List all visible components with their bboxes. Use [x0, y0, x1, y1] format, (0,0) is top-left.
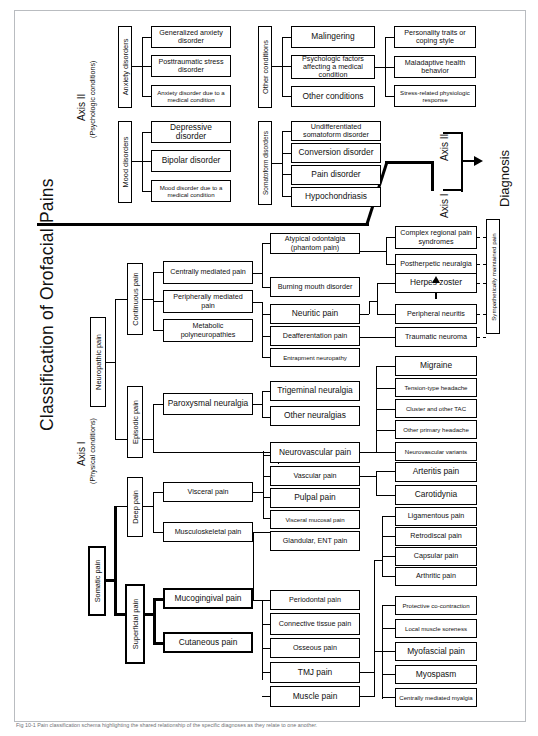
box-complex-regional-pain-syndromes: Complex regional pain syndromes [395, 226, 477, 249]
box-neuritic-pain: Neuritic pain [270, 304, 360, 324]
box-connective-tissue-pain: Connective tissue pain [270, 613, 360, 635]
box-maladaptive-health-behavior: Maladaptive health behavior [394, 56, 476, 78]
figure-caption: Fig 10-1 Pain classification schema high… [16, 722, 524, 728]
group-somatoform-disorders-label: Somatoform disorders [262, 131, 269, 195]
group-continuous-pain: Continuous pain [127, 263, 143, 335]
group-deep-pain-label: Deep pain [131, 490, 140, 524]
box-bipolar-disorder: Bipolar disorder [151, 150, 231, 172]
figure-page: Classification of Orofacial Pains Axis I… [0, 0, 538, 736]
figure-title: Classification of Orofacial Pains [37, 178, 58, 431]
box-centrally-mediated-pain: Centrally mediated pain [163, 261, 253, 284]
box-tmj-pain: TMJ pain [270, 662, 360, 683]
diagnosis-axis2-label: Axis II [439, 134, 450, 161]
axis1-label: Axis I [76, 442, 87, 466]
diagnosis-label: Diagnosis [497, 150, 512, 207]
box-peripheral-neuritis: Peripheral neuritis [395, 304, 477, 324]
group-sympathetically-maintained-pain: Sympathetically maintained pain [486, 219, 500, 334]
box-anxiety-disorder-medical: Anxiety disorder due to a medical condit… [151, 85, 231, 107]
box-centrally-mediated-myalgia: Centrally mediated myalgia [395, 688, 477, 707]
group-continuous-pain-label: Continuous pain [131, 272, 140, 325]
herpes-to-postherpetic-arrow-icon [432, 276, 440, 283]
group-sympathetically-maintained-pain-label: Sympathetically maintained pain [490, 233, 497, 320]
box-hypochondriasis: Hypochondriasis [291, 187, 381, 207]
box-pulpal-pain: Pulpal pain [270, 488, 360, 508]
box-cutaneous-pain: Cutaneous pain [163, 632, 253, 653]
group-superficial-pain-label: Superficial pain [131, 599, 140, 650]
box-stress-related-response: Stress-related physiologic response [394, 85, 476, 107]
box-conversion-disorder: Conversion disorder [291, 143, 381, 163]
box-mucogingival-pain: Mucogingival pain [163, 588, 253, 609]
box-arteritis-pain: Arteritis pain [395, 462, 477, 482]
group-anxiety-disorders: Anxiety disorders [118, 26, 132, 108]
box-periodontal-pain: Periodontal pain [270, 590, 360, 610]
box-mood-disorder-medical: Mood disorder due to a medical condition [151, 180, 231, 202]
box-paroxysmal-neuralgia: Paroxysmal neuralgia [163, 393, 253, 415]
group-episodic-pain-label: Episodic pain [131, 400, 140, 444]
box-vascular-pain: Vascular pain [270, 466, 360, 486]
box-burning-mouth-disorder: Burning mouth disorder [270, 277, 360, 297]
axis1-sublabel: (Physical conditions) [88, 418, 97, 484]
box-postherpetic-neuralgia: Postherpetic neuralgia [395, 254, 477, 274]
diagnosis-arrow-icon [474, 156, 483, 166]
box-migraine: Migraine [395, 356, 477, 376]
axis2-label: Axis II [76, 94, 87, 121]
box-posttraumatic-stress-disorder: Posttraumatic stress disorder [151, 55, 231, 77]
box-trigeminal-neuralgia: Trigeminal neuralgia [270, 381, 360, 401]
group-somatic-pain: Somatic pain [88, 546, 106, 616]
box-ligamentous-pain: Ligamentous pain [395, 507, 477, 526]
box-osseous-pain: Osseous pain [270, 638, 360, 658]
box-retrodiscal-pain: Retrodiscal pain [395, 527, 477, 546]
box-entrapment-neuropathy: Entrapment neuropathy [270, 348, 360, 367]
box-arthritic-pain: Arthritic pain [395, 567, 477, 586]
diagnosis-axis1-label: Axis I [439, 194, 450, 218]
group-mood-disorders-label: Mood disorders [121, 137, 130, 188]
group-neuropathic-pain-label: Neuropathic pain [94, 334, 103, 390]
box-traumatic-neuroma: Traumatic neuroma [395, 327, 477, 347]
group-mood-disorders: Mood disorders [118, 121, 132, 203]
box-protective-co-contraction: Protective co-contraction [395, 596, 477, 615]
group-other-conditions: Other conditions [258, 26, 272, 108]
box-visceral-pain: Visceral pain [163, 482, 253, 502]
box-other-conditions: Other conditions [291, 86, 375, 107]
group-anxiety-disorders-label: Anxiety disorders [121, 39, 130, 96]
box-generalized-anxiety-disorder: Generalized anxiety disorder [151, 26, 231, 48]
box-capsular-pain: Capsular pain [395, 547, 477, 566]
box-carotidynia: Carotidynia [395, 485, 477, 505]
box-other-neuralgias: Other neuralgias [270, 406, 360, 426]
group-other-conditions-label: Other conditions [261, 40, 270, 94]
box-other-primary-headache: Other primary headache [395, 420, 477, 439]
box-local-muscle-soreness: Local muscle soreness [395, 619, 477, 638]
box-malingering: Malingering [291, 26, 375, 48]
box-neurovascular-variants: Neurovascular variants [395, 442, 477, 461]
box-depressive-disorder: Depressive disorder [151, 121, 231, 143]
box-atypical-odontalgia: Atypical odontalgia (phantom pain) [270, 233, 360, 254]
group-neuropathic-pain: Neuropathic pain [90, 317, 106, 407]
group-superficial-pain: Superficial pain [125, 584, 145, 664]
box-undifferentiated-somatoform: Undifferentiated somatoform disorder [291, 121, 381, 141]
box-cluster-and-other-tac: Cluster and other TAC [395, 399, 477, 418]
axis2-sublabel: (Psychologic conditions) [88, 60, 97, 138]
box-metabolic-polyneuropathies: Metabolic polyneuropathies [163, 319, 253, 342]
figure-frame: Classification of Orofacial Pains Axis I… [14, 10, 526, 722]
box-psychologic-factors: Psychologic factors affecting a medical … [291, 55, 375, 79]
box-tension-type-headache: Tension-type headache [395, 378, 477, 397]
box-neurovascular-pain: Neurovascular pain [270, 442, 360, 463]
box-muscle-pain: Muscle pain [270, 686, 360, 707]
group-somatic-pain-label: Somatic pain [93, 560, 102, 603]
group-deep-pain: Deep pain [127, 477, 143, 537]
box-peripherally-mediated-pain: Peripherally mediated pain [163, 290, 253, 313]
box-myospasm: Myospasm [395, 665, 477, 684]
box-personality-traits: Personality traits or coping style [394, 26, 476, 48]
group-somatoform-disorders: Somatoform disorders [258, 121, 272, 205]
box-deafferentation-pain: Deafferentation pain [270, 326, 360, 346]
box-visceral-mucosal-pain: Visceral mucosal pain [270, 510, 360, 529]
box-musculoskeletal-pain: Musculoskeletal pain [163, 522, 253, 542]
group-episodic-pain: Episodic pain [127, 386, 143, 458]
box-glandular-ent-pain: Glandular, ENT pain [270, 531, 360, 551]
box-myofascial-pain: Myofascial pain [395, 642, 477, 661]
box-pain-disorder: Pain disorder [291, 165, 381, 185]
